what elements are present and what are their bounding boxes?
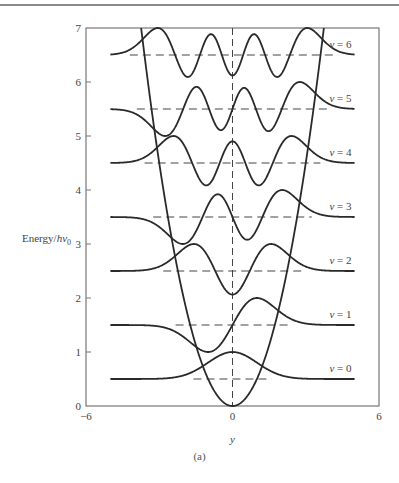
figure-caption: (a) <box>0 450 399 462</box>
y-tick-label: 3 <box>76 238 82 250</box>
y-tick-label: 2 <box>76 292 82 304</box>
axis-ticks: 01234567−606y <box>76 22 383 445</box>
level-label-v2: v = 2 <box>329 254 351 266</box>
y-tick-label: 4 <box>76 184 82 196</box>
y-tick-label: 7 <box>76 22 82 34</box>
level-label-v4: v = 4 <box>329 146 352 158</box>
level-labels: v = 0v = 1v = 2v = 3v = 4v = 5v = 6 <box>329 38 352 374</box>
y-tick-label: 5 <box>76 130 82 142</box>
level-label-v5: v = 5 <box>329 92 352 104</box>
x-axis-label: y <box>229 433 235 445</box>
y-axis-label: Energy/hν0 <box>22 232 71 247</box>
y-tick-label: 1 <box>76 346 82 358</box>
level-label-v3: v = 3 <box>329 200 352 212</box>
x-tick-label: 6 <box>376 410 382 422</box>
x-tick-label: −6 <box>80 410 92 422</box>
level-label-v0: v = 0 <box>329 362 352 374</box>
x-tick-label: 0 <box>230 410 236 422</box>
y-tick-label: 6 <box>76 76 82 88</box>
level-label-v1: v = 1 <box>329 308 351 320</box>
level-label-v6: v = 6 <box>329 38 352 50</box>
